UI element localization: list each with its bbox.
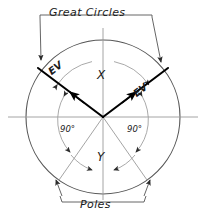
great-circles-label: Great Circles	[49, 6, 125, 19]
angle-arc-y-right	[114, 155, 135, 170]
great-circles-leader-right	[152, 17, 161, 62]
poles-label: Poles	[80, 198, 111, 211]
poles-leader-left	[56, 180, 62, 196]
diagram-canvas	[0, 0, 205, 217]
poles-leader-right	[144, 180, 150, 196]
great-circles-leader-left	[40, 17, 41, 60]
angle-label-right: 90°	[127, 124, 142, 134]
axis-label-y: Y	[97, 150, 104, 164]
ev-arrow-left	[70, 92, 84, 103]
angle-arc-y-left	[71, 155, 92, 170]
great-circles-diagram: Great Circles EV EV X Y 90° 90° Poles	[0, 0, 205, 217]
angle-label-left: 90°	[60, 124, 75, 134]
axis-label-x: X	[97, 68, 105, 82]
